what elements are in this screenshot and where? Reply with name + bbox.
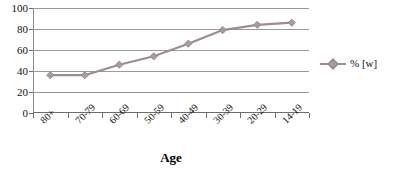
series-line: [50, 23, 292, 75]
data-point-marker: [150, 53, 157, 60]
data-point-marker: [116, 61, 123, 68]
data-point-marker: [219, 26, 226, 33]
plot-area: [33, 8, 309, 113]
data-point-marker: [254, 21, 261, 28]
x-tick-mark: [68, 113, 69, 118]
legend-marker-icon: [320, 59, 346, 69]
x-tick-mark: [102, 113, 103, 118]
legend-item-label: % [w]: [350, 58, 377, 69]
diamond-marker-icon: [327, 58, 338, 69]
x-tick-mark: [240, 113, 241, 118]
series-line-percent-w: [33, 8, 309, 113]
x-tick-mark: [33, 113, 34, 118]
y-tick-label: 100: [12, 3, 29, 14]
y-tick-label: 0: [23, 108, 29, 119]
x-tick-mark: [309, 113, 310, 118]
y-tick-label: 20: [17, 87, 28, 98]
data-point-marker: [288, 19, 295, 26]
data-point-marker: [47, 72, 54, 79]
data-point-marker: [81, 72, 88, 79]
x-tick-mark: [137, 113, 138, 118]
x-tick-mark: [171, 113, 172, 118]
chart-legend: % [w]: [320, 58, 377, 69]
line-chart: 020406080100 80+70-7960-6950-5940-4930-3…: [0, 0, 405, 182]
y-tick-label: 60: [17, 45, 28, 56]
x-tick-mark: [275, 113, 276, 118]
y-tick-label: 80: [17, 24, 28, 35]
x-tick-mark: [206, 113, 207, 118]
data-point-marker: [185, 40, 192, 47]
y-tick-label: 40: [17, 66, 28, 77]
y-axis: 020406080100: [0, 0, 33, 121]
x-axis-title: Age: [33, 150, 309, 166]
